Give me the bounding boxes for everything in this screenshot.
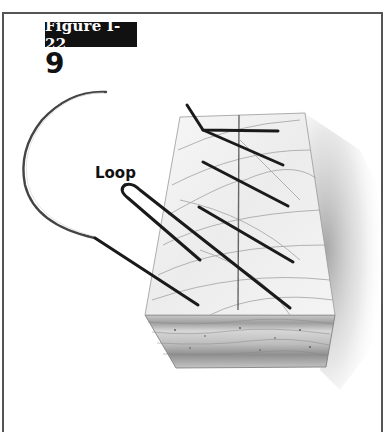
loop-annotation: Loop [95, 164, 136, 182]
skin-block-top-surface [145, 113, 335, 315]
curved-needle [23, 92, 106, 238]
skin-block-layers [145, 315, 335, 368]
